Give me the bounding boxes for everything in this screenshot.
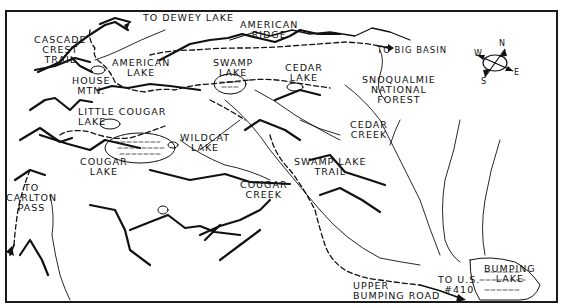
- label-swamp-lake: SWAMP LAKE: [213, 58, 253, 78]
- lake-ripples: [115, 82, 525, 290]
- label-cougar-lake: COUGAR LAKE: [80, 157, 128, 177]
- label-to-carlton-pass: TO CARLTON PASS: [6, 183, 57, 213]
- label-snoqualmie-national-forest: SNOQUALMIE NATIONAL FOREST: [362, 75, 436, 105]
- label-cedar-creek: CEDAR CREEK: [350, 120, 388, 140]
- label-cascade-crest-trail: CASCADE CREST TRAIL: [34, 35, 87, 65]
- lakes: [91, 66, 540, 300]
- label-american-lake: AMERICAN LAKE: [112, 58, 170, 78]
- label-swamp-lake-trail: SWAMP LAKE TRAIL: [294, 157, 367, 177]
- label-bumping-lake: BUMPING LAKE: [484, 264, 536, 284]
- label-american-ridge: AMERICAN RIDGE: [240, 20, 298, 40]
- compass-label-n: N: [499, 39, 506, 49]
- compass-label-e: E: [514, 68, 520, 78]
- label-upper-bumping-road: UPPER BUMPING ROAD: [353, 281, 440, 301]
- label-to-big-basin: TO BIG BASIN: [377, 45, 447, 55]
- label-wildcat-lake: WILDCAT LAKE: [180, 133, 230, 153]
- compass-label-s: S: [481, 77, 487, 87]
- label-to-dewey-lake: TO DEWEY LAKE: [143, 13, 234, 23]
- label-to-us-410: TO U.S. #410: [438, 275, 480, 295]
- label-little-cougar-lake: LITTLE COUGAR LAKE: [78, 107, 166, 127]
- label-cedar-lake: CEDAR LAKE: [285, 63, 323, 83]
- label-cougar-creek: COUGAR CREEK: [240, 180, 288, 200]
- compass-label-w: W: [474, 49, 483, 59]
- label-house-mtn: HOUSE MTN.: [72, 76, 111, 96]
